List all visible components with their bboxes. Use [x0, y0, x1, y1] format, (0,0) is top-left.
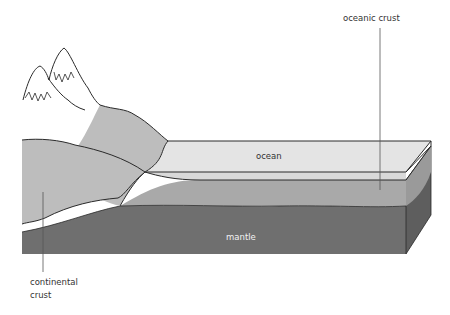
- mantle-layer: [22, 205, 406, 254]
- continental-crust-label-line1: continental: [30, 277, 78, 288]
- ocean-label: ocean: [256, 151, 282, 162]
- continental-crust-label-line2: crust: [30, 290, 51, 301]
- oceanic-crust-layer: [120, 180, 406, 207]
- crust-cross-section-diagram: [0, 0, 450, 315]
- ocean-front: [145, 172, 406, 180]
- mantle-label: mantle: [226, 232, 256, 243]
- oceanic-crust-label: oceanic crust: [343, 13, 400, 24]
- ocean-top: [145, 141, 431, 172]
